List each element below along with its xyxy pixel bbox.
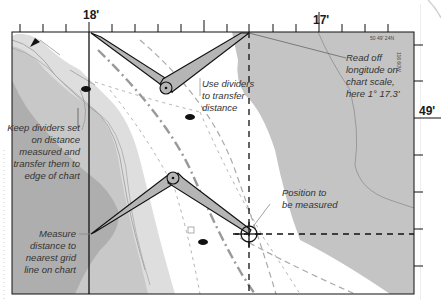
line: chart scale,	[346, 76, 400, 88]
annotation-position: Position to be measured	[282, 187, 337, 211]
line: measured and	[14, 146, 80, 158]
line: Use dividers	[202, 78, 254, 90]
line: Measure	[14, 228, 76, 240]
line: distance	[202, 102, 254, 114]
line: line on chart	[4, 264, 76, 276]
annotation-read-off: Read off longitude on chart scale, here …	[346, 52, 400, 100]
line: nearest grid	[14, 252, 76, 264]
line: transfer them to	[4, 158, 80, 170]
line: Keep dividers set	[0, 122, 80, 134]
line: distance to	[14, 240, 76, 252]
annotation-keep-dividers: Keep dividers set on distance measured a…	[14, 122, 80, 182]
line: Position to	[282, 187, 337, 199]
line: here 1° 17.3'	[346, 88, 400, 100]
top-scale-label-17: 17'	[313, 13, 329, 27]
line: be measured	[282, 199, 337, 211]
annotation-use-dividers: Use dividers to transfer distance	[202, 78, 254, 114]
top-scale-label-18: 18'	[83, 8, 99, 22]
line: Read off	[346, 52, 400, 64]
right-scale-label-49: 49'	[419, 104, 435, 118]
annotation-measure: Measure distance to nearest grid line on…	[14, 228, 76, 276]
line: on distance	[14, 134, 80, 146]
line: edge of chart	[14, 170, 80, 182]
line: longitude on	[346, 64, 400, 76]
line: to transfer	[202, 90, 254, 102]
corner-latitude: 50 49' 24N	[370, 35, 394, 41]
